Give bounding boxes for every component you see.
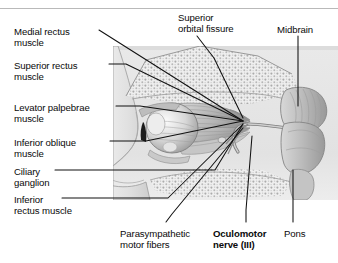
label-superior-rectus-muscle: Superior rectusmuscle (14, 60, 78, 83)
label-line-2: muscle (14, 148, 44, 159)
label-line-1: Midbrain (277, 24, 313, 35)
label-oculomotor-nerve-iii: Oculomotornerve (III) (213, 228, 266, 251)
label-line-1: Parasympathetic (120, 228, 190, 239)
label-line-1: Oculomotor (213, 228, 266, 239)
label-pons: Pons (284, 228, 305, 239)
label-line-2: muscle (14, 71, 44, 82)
label-line-1: Superior rectus (14, 60, 78, 71)
anatomy-figure: Medial rectusmuscle Superior rectusmuscl… (0, 0, 338, 263)
label-line-1: Inferior oblique (14, 137, 76, 148)
label-line-1: Ciliary (14, 166, 40, 177)
label-line-2: rectus muscle (14, 205, 72, 216)
label-line-2: muscle (14, 37, 44, 48)
label-levator-palpebrae-muscle: Levator palpebraemuscle (14, 102, 90, 125)
label-line-2: motor fibers (120, 239, 169, 250)
label-inferior-oblique-muscle: Inferior obliquemuscle (14, 137, 76, 160)
label-line-1: Medial rectus (14, 26, 70, 37)
label-line-1: Inferior (14, 194, 43, 205)
label-line-1: Pons (284, 228, 305, 239)
label-line-1: Levator palpebrae (14, 102, 90, 113)
label-parasympathetic-motor-fibers: Parasympatheticmotor fibers (120, 228, 190, 251)
label-medial-rectus-muscle: Medial rectusmuscle (14, 26, 70, 49)
label-line-2: nerve (III) (213, 239, 255, 250)
label-superior-orbital-fissure: Superiororbital fissure (178, 12, 234, 35)
label-ciliary-ganglion: Ciliaryganglion (14, 166, 49, 189)
label-line-2: muscle (14, 113, 44, 124)
label-midbrain: Midbrain (277, 24, 313, 35)
label-line-1: Superior (178, 12, 213, 23)
label-line-2: ganglion (14, 177, 49, 188)
label-line-2: orbital fissure (178, 23, 234, 34)
label-inferior-rectus-muscle: Inferiorrectus muscle (14, 194, 72, 217)
